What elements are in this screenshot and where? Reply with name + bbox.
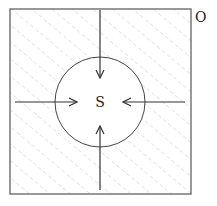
region-label-o: O bbox=[195, 9, 206, 25]
center-label-s: S bbox=[95, 94, 105, 110]
diagram-canvas: S O bbox=[0, 0, 217, 206]
